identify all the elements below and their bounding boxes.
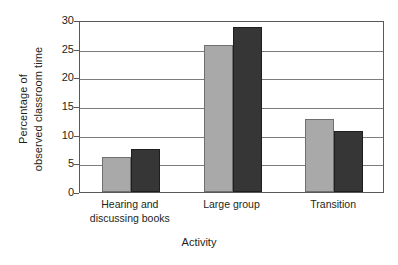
x-axis-category-label: Hearing and discussing books — [79, 198, 181, 225]
y-axis-tick-label: 25 — [44, 44, 74, 55]
y-axis-tick-mark — [74, 193, 79, 194]
y-axis-title-line-2: observed classroom time — [31, 14, 46, 204]
bar — [334, 131, 363, 192]
bar — [305, 119, 334, 192]
y-axis-tick-label: 20 — [44, 72, 74, 83]
y-axis-tick-labels: 051015202530 — [44, 0, 74, 265]
bar — [131, 149, 160, 192]
bar — [233, 27, 262, 192]
y-axis-tick-label: 30 — [44, 15, 74, 26]
x-axis-title: Activity — [0, 236, 398, 248]
plot-area — [79, 21, 384, 193]
bar-chart-figure: Percentage of observed classroom time 05… — [0, 0, 398, 265]
bar — [102, 157, 131, 192]
y-axis-tick-label: 15 — [44, 101, 74, 112]
bar — [204, 45, 233, 192]
x-axis-category-label: Transition — [282, 198, 384, 212]
x-axis-category-label: Large group — [181, 198, 283, 212]
plot-inner — [80, 22, 383, 192]
y-axis-tick-label: 5 — [44, 158, 74, 169]
y-axis-tick-label: 0 — [44, 187, 74, 198]
y-axis-title-line-1: Percentage of — [16, 14, 31, 204]
y-axis-tick-label: 10 — [44, 130, 74, 141]
